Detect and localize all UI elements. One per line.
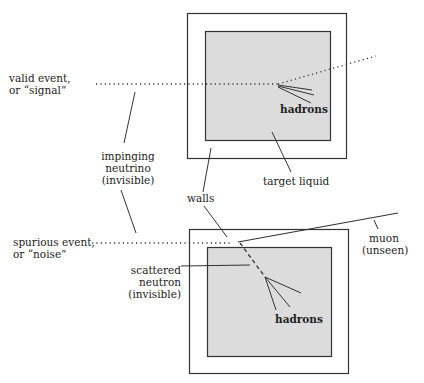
label-spurious-event: spurious event, or “noise” [13, 236, 95, 260]
label-line: or “signal” [9, 84, 71, 96]
label-line: or “noise” [13, 248, 95, 260]
label-line: spurious event, [13, 236, 95, 248]
label-line: (invisible) [90, 174, 166, 186]
label-scattered-neutron: scattered neutron (invisible) [110, 264, 181, 300]
bottom-target-liquid [208, 248, 332, 357]
label-line: valid event, [9, 72, 71, 84]
label-muon: muon (unseen) [362, 232, 406, 256]
impinging-leader-top [124, 92, 135, 143]
label-impinging-neutrino: impinging neutrino (invisible) [90, 150, 166, 186]
label-line: impinging [90, 150, 166, 162]
top-target-liquid [206, 32, 331, 141]
label-walls: walls [187, 192, 214, 204]
label-valid-event: valid event, or “signal” [9, 72, 71, 96]
label-line: neutrino [90, 162, 166, 174]
muon-leader [374, 220, 378, 229]
label-line: (invisible) [110, 288, 181, 300]
label-target-liquid: target liquid [263, 175, 329, 187]
label-hadrons-bottom: hadrons [275, 313, 323, 325]
label-hadrons-top: hadrons [280, 103, 328, 115]
label-line: neutron [110, 276, 181, 288]
impinging-leader-bottom [121, 190, 136, 233]
label-line: scattered [110, 264, 181, 276]
label-line: (unseen) [362, 244, 406, 256]
label-line: muon [362, 232, 406, 244]
